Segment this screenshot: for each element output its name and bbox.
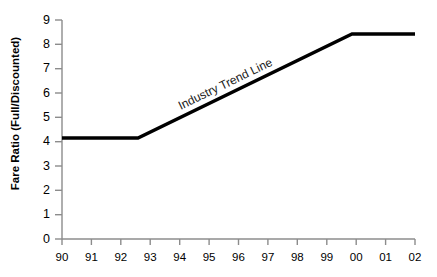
y-tick-label-3: 3 — [28, 160, 50, 173]
y-tick-label-6: 6 — [28, 87, 50, 100]
y-axis-ticks — [55, 20, 62, 239]
y-tick-label-2: 2 — [28, 184, 50, 197]
x-tick-label-99: 99 — [312, 252, 342, 264]
x-tick-label-96: 96 — [224, 252, 254, 264]
x-tick-label-91: 91 — [76, 252, 106, 264]
x-tick-label-95: 95 — [194, 252, 224, 264]
y-tick-label-0: 0 — [28, 233, 50, 246]
y-tick-label-4: 4 — [28, 135, 50, 148]
x-tick-label-98: 98 — [282, 252, 312, 264]
y-tick-label-1: 1 — [28, 208, 50, 221]
x-tick-label-94: 94 — [165, 252, 195, 264]
x-tick-label-92: 92 — [106, 252, 136, 264]
trend-line-series — [62, 34, 415, 138]
x-tick-label-90: 90 — [47, 252, 77, 264]
x-tick-label-97: 97 — [253, 252, 283, 264]
y-tick-label-7: 7 — [28, 62, 50, 75]
x-tick-label-00: 00 — [341, 252, 371, 264]
plot-area — [0, 0, 437, 277]
x-tick-label-02: 02 — [400, 252, 430, 264]
x-axis-ticks — [62, 239, 415, 245]
y-tick-label-8: 8 — [28, 38, 50, 51]
fare-ratio-line-chart: Fare Ratio (Full/Discounted) — [0, 0, 437, 277]
x-tick-label-01: 01 — [371, 252, 401, 264]
x-tick-label-93: 93 — [135, 252, 165, 264]
y-tick-label-5: 5 — [28, 111, 50, 124]
y-tick-label-9: 9 — [28, 14, 50, 27]
